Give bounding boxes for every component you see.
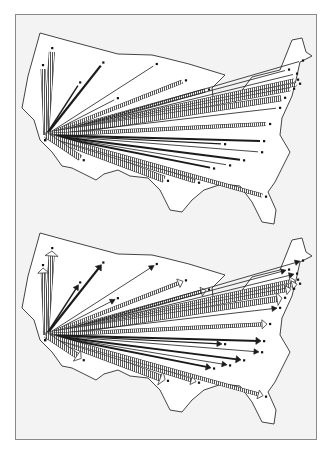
destination-marker [185, 279, 187, 281]
flow-maps [0, 0, 331, 455]
destination-marker [284, 297, 286, 299]
destination-marker [263, 140, 265, 142]
destination-marker [51, 247, 53, 249]
destination-marker [229, 164, 231, 166]
destination-marker [279, 307, 281, 309]
destination-marker [208, 288, 210, 290]
destination-marker [297, 79, 299, 81]
destination-marker [269, 123, 271, 125]
destination-marker [299, 283, 301, 285]
destination-marker [265, 396, 267, 398]
destination-marker [156, 263, 158, 265]
destination-marker [302, 59, 304, 61]
destination-marker [42, 264, 44, 266]
destination-marker [185, 79, 187, 81]
destination-marker [279, 107, 281, 109]
destination-marker [243, 359, 245, 361]
origin-marker [44, 339, 46, 341]
destination-marker [117, 97, 119, 99]
destination-marker [224, 143, 226, 145]
destination-marker [288, 68, 290, 70]
destination-marker [293, 288, 295, 290]
destination-marker [213, 167, 215, 169]
map-panel-bottom [22, 233, 312, 424]
destination-marker [167, 380, 169, 382]
destination-marker [224, 343, 226, 345]
destination-marker [263, 340, 265, 342]
destination-marker [265, 196, 267, 198]
destination-marker [208, 88, 210, 90]
destination-marker [102, 261, 104, 263]
destination-marker [284, 97, 286, 99]
map-panel-top [22, 33, 312, 224]
destination-marker [243, 159, 245, 161]
destination-marker [261, 351, 263, 353]
destination-marker [156, 63, 158, 65]
destination-marker [51, 47, 53, 49]
destination-marker [299, 83, 301, 85]
destination-marker [42, 64, 44, 66]
destination-marker [302, 259, 304, 261]
destination-marker [198, 182, 200, 184]
destination-marker [83, 359, 85, 361]
destination-marker [198, 382, 200, 384]
destination-marker [293, 88, 295, 90]
destination-marker [213, 367, 215, 369]
destination-marker [167, 180, 169, 182]
destination-marker [297, 279, 299, 281]
destination-marker [117, 297, 119, 299]
destination-marker [288, 268, 290, 270]
origin-marker [44, 139, 46, 141]
destination-marker [269, 323, 271, 325]
destination-marker [229, 364, 231, 366]
destination-marker [79, 281, 81, 283]
destination-marker [83, 159, 85, 161]
destination-marker [296, 273, 298, 275]
destination-marker [79, 81, 81, 83]
destination-marker [102, 61, 104, 63]
destination-marker [296, 73, 298, 75]
destination-marker [261, 151, 263, 153]
